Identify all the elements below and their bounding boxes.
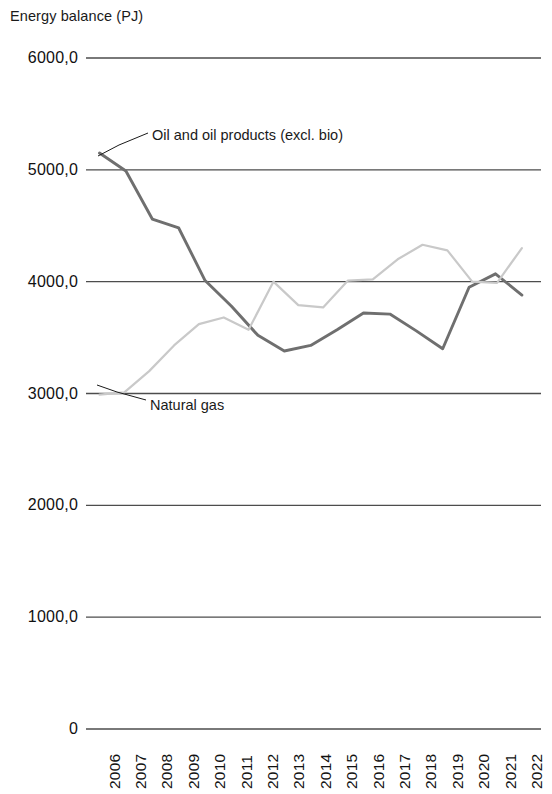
annotation-leader-lines bbox=[97, 133, 148, 400]
oil-annotation-leader-line bbox=[98, 133, 148, 156]
series-line-natural-gas bbox=[100, 245, 522, 395]
gridlines bbox=[86, 58, 541, 729]
plot-area bbox=[0, 0, 552, 794]
gas-annotation-label: Natural gas bbox=[150, 397, 224, 413]
series-line-oil-and-oil-products-excl-bio bbox=[100, 153, 522, 351]
oil-annotation-label: Oil and oil products (excl. bio) bbox=[152, 127, 343, 143]
data-series-layer bbox=[100, 153, 522, 395]
energy-balance-chart: Energy balance (PJ) 6000,05000,04000,030… bbox=[0, 0, 552, 794]
